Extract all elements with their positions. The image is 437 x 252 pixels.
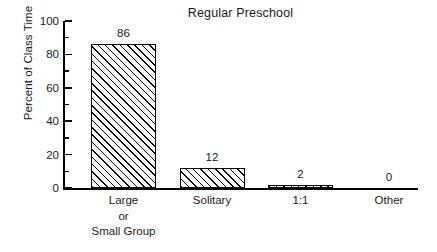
- y-tick-label: 20: [31, 149, 59, 161]
- bar: [91, 44, 156, 188]
- y-tick-label: 100: [31, 15, 59, 27]
- chart-title: Regular Preschool: [63, 6, 418, 20]
- bar: [180, 168, 245, 188]
- x-tick-label: Solitary: [193, 193, 231, 209]
- y-tick-label-group: 020406080100: [27, 21, 59, 188]
- y-tick-label: 40: [31, 115, 59, 127]
- bar-value-label: 2: [297, 168, 303, 180]
- x-tick-label-line: or: [92, 209, 156, 225]
- x-tick-label-line: Other: [375, 193, 404, 209]
- plot-area: [63, 21, 418, 188]
- x-tick-label-group: LargeorSmall GroupSolitary1:1Other: [63, 193, 418, 252]
- x-tick-label-line: Large: [92, 193, 156, 209]
- y-tick-label: 0: [31, 182, 59, 194]
- x-tick-label-line: 1:1: [293, 193, 309, 209]
- y-tick-label: 60: [31, 82, 59, 94]
- y-tick-label: 80: [31, 48, 59, 60]
- bars-group: [63, 21, 418, 188]
- x-tick-label-line: Small Group: [92, 224, 156, 240]
- x-tick-label-line: Solitary: [193, 193, 231, 209]
- x-tick-label: LargeorSmall Group: [92, 193, 156, 240]
- bar-value-label: 86: [117, 27, 130, 39]
- bar-chart-figure: Regular Preschool Percent of Class Time …: [0, 0, 437, 252]
- bar-value-label: 0: [386, 171, 392, 183]
- x-axis-line: [63, 188, 418, 190]
- bar: [268, 185, 333, 188]
- x-tick-label: 1:1: [293, 193, 309, 209]
- x-tick-label: Other: [375, 193, 404, 209]
- bar-value-label: 12: [206, 151, 219, 163]
